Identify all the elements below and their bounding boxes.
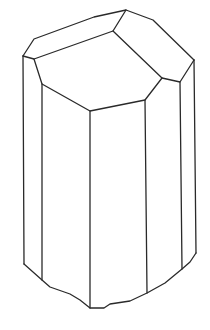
left-bevel-edge — [23, 56, 34, 59]
crystal-diagram — [0, 0, 210, 330]
top-outer-edge — [23, 10, 194, 60]
top-face — [34, 31, 162, 111]
vertical-edge-4 — [145, 100, 147, 293]
right-bevel-edge — [162, 60, 194, 82]
vertical-edge-6 — [194, 60, 196, 253]
vertical-edge-1 — [23, 56, 24, 264]
crystal-drawing — [0, 0, 210, 330]
bottom-broken-edge — [24, 253, 196, 308]
top-left-bevel-edge — [113, 10, 126, 31]
vertical-prism-edges — [23, 56, 196, 308]
vertical-edge-5 — [180, 82, 182, 269]
